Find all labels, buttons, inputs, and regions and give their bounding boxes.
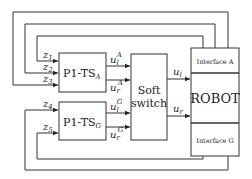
robot-label: ROBOT [190,91,240,106]
soft-switch-label-line1: Soft [138,84,161,97]
soft-switch-label-line2: switch [131,97,167,110]
control-block-diagram: P1-TSA P1-TSG Soft switch ROBOT Interfac… [0,0,252,179]
interface-g-label: Interface G [196,137,233,145]
z3-label: z3 [42,73,53,86]
p1-ts-a-label: P1-TSA [63,67,101,81]
z5-label: z5 [42,121,53,134]
ul-a-label: ulA [110,51,122,67]
ur-a-label: urA [110,79,123,95]
z4-label: z4 [42,98,53,111]
ur-g-label: urG [110,126,124,142]
ul-label: ul [173,66,182,79]
ur-label: ur [173,103,183,116]
ul-g-label: ulG [110,98,123,114]
interface-a-label: Interface A [197,58,234,66]
